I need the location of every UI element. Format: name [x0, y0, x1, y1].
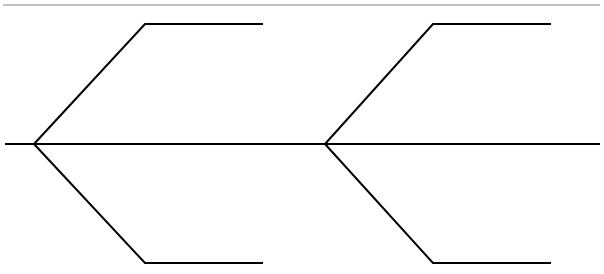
vertex-2-lower-branch [325, 144, 551, 263]
vertex-1-upper-branch [34, 24, 263, 144]
vertex-2-upper-branch [325, 24, 551, 144]
vertex-1-lower-branch [34, 144, 263, 263]
diagram-canvas [0, 0, 604, 274]
